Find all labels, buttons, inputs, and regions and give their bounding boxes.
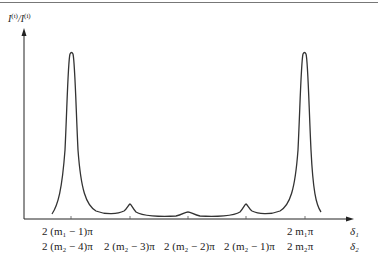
y-axis-label: I(t)/I(i): [8, 12, 31, 24]
y-axis-arrow-icon: [22, 28, 27, 36]
tick-label-d1-4: 2 m₁π: [287, 225, 313, 237]
tick-label-d1-0: 2 (m₁ − 1)π: [42, 225, 93, 237]
y-label-sup-t: (t): [11, 12, 18, 20]
tick-label-d2-0: 2 (m₂ − 4)π: [42, 240, 93, 252]
chart-plot: [0, 0, 378, 261]
tick-label-d2-2: 2 (m₂ − 2)π: [164, 240, 215, 252]
y-label-sup-i: (i): [24, 12, 31, 20]
axis-label-delta1: δ₁: [350, 225, 359, 237]
transmission-curve: [52, 53, 321, 217]
tick-label-d2-3: 2 (m₂ − 1)π: [224, 240, 275, 252]
tick-label-d2-1: 2 (m₂ − 3)π: [104, 240, 155, 252]
x-axis-arrow-icon: [346, 217, 354, 222]
axis-label-delta2: δ₂: [350, 240, 359, 252]
tick-label-d2-4: 2 m₂π: [287, 240, 313, 252]
